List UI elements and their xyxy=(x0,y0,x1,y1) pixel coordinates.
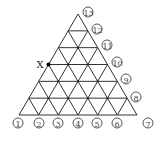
number-label-12: 12 xyxy=(92,24,103,35)
marker-label-x: X xyxy=(36,59,43,70)
number-label-8: 8 xyxy=(131,92,142,103)
number-label-7: 7 xyxy=(143,118,154,129)
number-label-11: 11 xyxy=(102,40,113,51)
number-label-4: 4 xyxy=(73,118,84,129)
number-label-13: 13 xyxy=(83,7,94,18)
number-label-10: 10 xyxy=(112,57,123,68)
triangle-grid-diagram: X 12345678910111213 xyxy=(0,0,164,142)
number-label-3: 3 xyxy=(53,118,64,129)
number-label-9: 9 xyxy=(121,74,132,85)
marker-dot-x xyxy=(47,63,51,67)
number-label-6: 6 xyxy=(112,118,123,129)
number-label-5: 5 xyxy=(92,118,103,129)
number-label-1: 1 xyxy=(13,118,24,129)
number-label-2: 2 xyxy=(34,118,45,129)
